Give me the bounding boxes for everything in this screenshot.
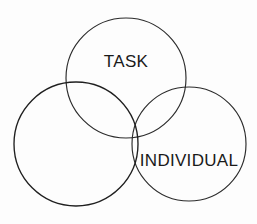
venn-canvas: TASK INDIVIDUAL [0,0,257,224]
label-task: TASK [104,52,149,71]
label-individual: INDIVIDUAL [140,151,238,170]
venn-diagram: TASK INDIVIDUAL [0,0,257,224]
